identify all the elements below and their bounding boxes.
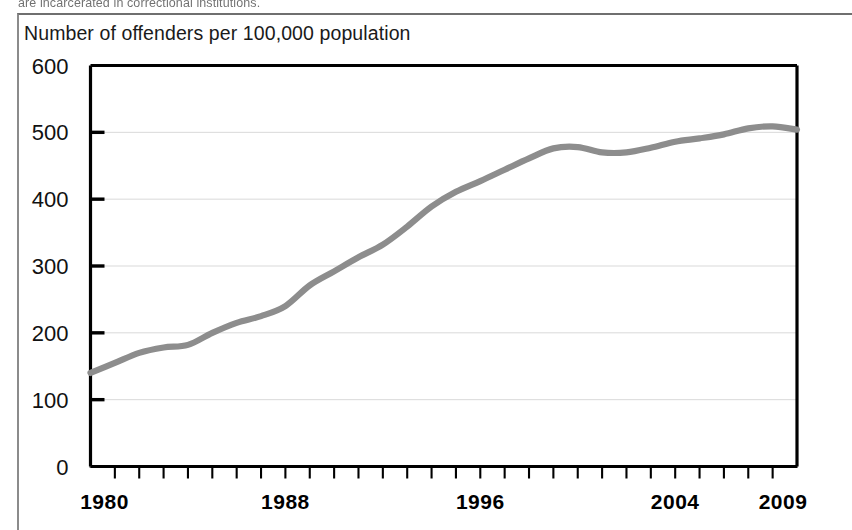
y-axis-tick-label: 500: [32, 120, 69, 145]
x-axis-tick-label: 2004: [651, 490, 700, 513]
x-axis-tick-label: 1996: [456, 490, 505, 513]
y-axis-tick-label: 100: [32, 388, 69, 413]
y-axis-tick-label: 0: [56, 455, 68, 480]
line-chart-svg: 0100200300400500600 19801988199620042009: [0, 0, 852, 530]
y-axis-labels-group: 0100200300400500600: [32, 54, 69, 480]
y-axis-tick-label: 600: [32, 54, 69, 79]
chart-plot-area: 0100200300400500600 19801988199620042009: [0, 0, 852, 530]
y-axis-tick-label: 300: [32, 254, 69, 279]
x-axis-labels-group: 19801988199620042009: [80, 490, 807, 513]
offender-rate-line: [91, 126, 798, 373]
x-axis-tick-label: 1988: [261, 490, 310, 513]
x-axis-tick-label: 2009: [759, 490, 808, 513]
y-axis-tick-label: 400: [32, 187, 69, 212]
y-axis-tick-label: 200: [32, 321, 69, 346]
x-axis-tick-label: 1980: [80, 490, 129, 513]
x-axis-ticks-group: [91, 467, 798, 479]
gridlines-group: [91, 132, 798, 399]
